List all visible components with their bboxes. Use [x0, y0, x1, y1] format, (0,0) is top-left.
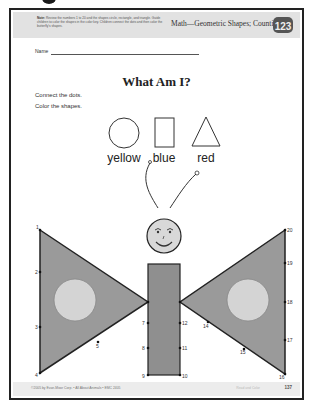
svg-text:1: 1: [36, 224, 39, 230]
butterfly-body: [148, 264, 180, 375]
key-rectangle-icon: [155, 118, 174, 147]
svg-text:7: 7: [142, 320, 145, 326]
svg-text:11: 11: [182, 345, 187, 351]
left-antenna: [146, 163, 158, 208]
svg-text:20: 20: [287, 227, 293, 233]
svg-text:12: 12: [182, 320, 188, 326]
left-wing-circle: [54, 279, 96, 321]
key-triangle-icon: [192, 117, 220, 146]
svg-text:5: 5: [96, 343, 99, 349]
right-wing-circle: [227, 279, 269, 321]
key-circle-icon: [109, 118, 139, 148]
svg-text:2: 2: [35, 269, 38, 275]
svg-text:9: 9: [142, 373, 145, 379]
svg-text:4: 4: [35, 372, 38, 378]
svg-text:18: 18: [287, 299, 293, 305]
svg-text:19: 19: [287, 260, 293, 266]
svg-text:17: 17: [287, 337, 293, 343]
svg-text:15: 15: [240, 349, 246, 355]
svg-text:10: 10: [182, 373, 188, 379]
right-antenna: [170, 174, 196, 208]
svg-text:3: 3: [35, 324, 38, 330]
svg-text:16: 16: [279, 374, 285, 380]
worksheet-art: 1 2 3 4 5 7 8 9 10 11 12 14 15 16 17 18 …: [0, 0, 313, 418]
svg-text:8: 8: [142, 345, 145, 351]
svg-text:14: 14: [203, 323, 209, 329]
